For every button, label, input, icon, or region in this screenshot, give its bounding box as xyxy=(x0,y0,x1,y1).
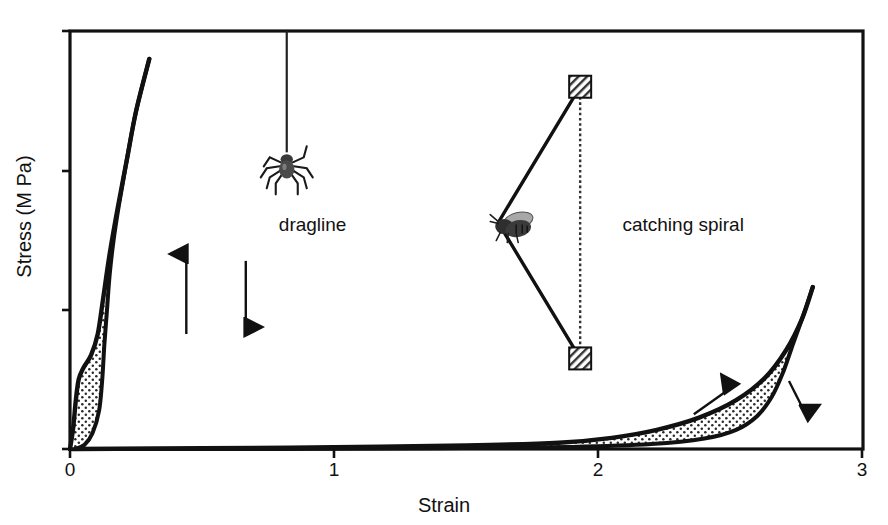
x-axis-label: Strain xyxy=(0,494,888,517)
dragline-label: dragline xyxy=(279,214,347,236)
plot-canvas xyxy=(0,0,888,525)
x-tick-label-0: 0 xyxy=(65,459,76,481)
anchor-block-top xyxy=(569,76,591,98)
spiral-unloading-arrow xyxy=(789,381,805,412)
catching-spiral-label: catching spiral xyxy=(622,214,743,236)
x-tick-label-3: 3 xyxy=(857,459,868,481)
plot-frame xyxy=(70,31,863,449)
spider-icon xyxy=(261,146,313,194)
spider-illustration-group xyxy=(261,31,313,194)
x-tick-label-2: 2 xyxy=(593,459,604,481)
y-axis-label: Stress (M Pa) xyxy=(13,107,36,327)
bee-icon xyxy=(490,209,534,242)
catching-spiral-illustration-group xyxy=(490,76,591,370)
x-tick-label-1: 1 xyxy=(329,459,340,481)
anchor-block-bottom xyxy=(569,347,591,369)
stress-strain-figure: Stress (M Pa) Strain 1200.0 800.0 400.0 … xyxy=(0,0,888,525)
